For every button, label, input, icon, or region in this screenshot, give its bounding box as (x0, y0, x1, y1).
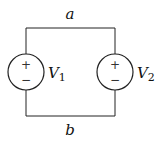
minus-sign: − (21, 73, 31, 87)
plus-sign: + (110, 58, 120, 72)
node-label-b: b (65, 121, 75, 139)
voltage-source-v1: + − V1 (8, 54, 66, 90)
source-label: V1 (48, 64, 66, 84)
circuit-diagram: + − V1 + − V2 a b (0, 0, 160, 142)
node-label-a: a (66, 5, 75, 23)
minus-sign: − (110, 73, 120, 87)
plus-sign: + (21, 58, 31, 72)
voltage-source-v2: + − V2 (97, 54, 155, 90)
source-label: V2 (137, 64, 155, 84)
